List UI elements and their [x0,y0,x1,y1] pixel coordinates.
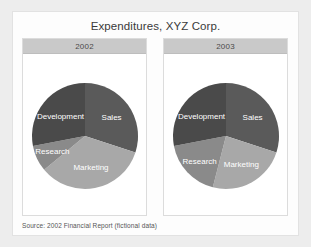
panel-2003: 2003 SalesMarketingResearchDevelopment [163,38,288,216]
pie-slice-label-marketing: Marketing [223,159,258,168]
pie-slice-label-research: Research [35,147,69,156]
pie-slice-label-development: Development [36,111,84,120]
panel-2002: 2002 SalesMarketingResearchDevelopment [22,38,147,216]
pie-slice-label-sales: Sales [242,112,262,121]
pie-slice-label-research: Research [182,156,216,165]
pie-slice-label-development: Development [177,111,225,120]
pie-chart-2003: SalesMarketingResearchDevelopment [164,54,287,217]
pie-slice-label-marketing: Marketing [73,163,108,172]
panel-header-2002: 2002 [23,39,146,54]
panel-header-2003: 2003 [164,39,287,54]
source-note: Source: 2002 Financial Report (fictional… [22,222,157,229]
pie-svg-2003: SalesMarketingResearchDevelopment [171,81,281,191]
pie-slice-label-sales: Sales [101,112,121,121]
figure-card: Expenditures, XYZ Corp. 2002 SalesMarket… [12,11,299,236]
pie-svg-2002: SalesMarketingResearchDevelopment [30,81,140,191]
pie-chart-2002: SalesMarketingResearchDevelopment [23,54,146,217]
page-title: Expenditures, XYZ Corp. [13,20,298,32]
